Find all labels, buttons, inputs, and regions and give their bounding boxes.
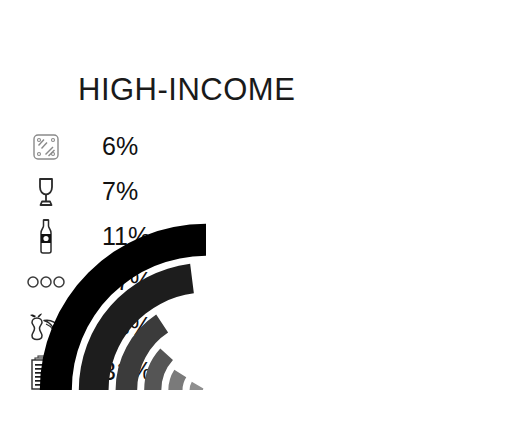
list-item: 7% [18, 169, 198, 214]
list-item: 28% [18, 304, 198, 349]
list-item: 31% [18, 349, 198, 394]
paper-stack-icon [18, 351, 74, 393]
legend-value: 7% [102, 179, 138, 204]
packaged-tray-icon [18, 126, 74, 168]
list-item: 11% [18, 214, 198, 259]
legend-value: 28% [102, 314, 152, 339]
food-scraps-icon [18, 306, 74, 348]
legend-value: 11% [102, 224, 150, 249]
legend-value: 17% [102, 269, 152, 294]
list-item: 6% [18, 124, 198, 169]
wine-glass-icon [18, 171, 74, 213]
bottle-icon [18, 216, 74, 258]
list-item: 17% [18, 259, 198, 304]
page-title: HIGH-INCOME [78, 72, 295, 108]
legend: 6% 7% 11% [18, 124, 198, 394]
infographic-root: HIGH-INCOME 6% [0, 0, 508, 424]
legend-value: 6% [102, 134, 138, 159]
legend-value: 31% [102, 359, 152, 384]
eggs-icon [18, 261, 74, 303]
